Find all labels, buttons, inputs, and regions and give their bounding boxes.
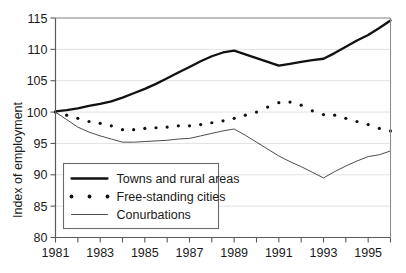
legend-marker-dot (88, 195, 92, 199)
series-point-free-standing-cities (65, 114, 68, 117)
series-line-towns-and-rural-areas (56, 21, 391, 112)
series-point-free-standing-cities (233, 117, 236, 120)
data-series (54, 21, 392, 178)
y-tick-label: 110 (28, 43, 48, 57)
y-axis-tick-labels: 80859095100105110115 (27, 12, 48, 246)
series-point-free-standing-cities (166, 126, 169, 129)
series-point-free-standing-cities (188, 124, 191, 127)
legend-label: Free-standing cities (117, 190, 226, 204)
series-point-free-standing-cities (121, 128, 124, 131)
series-point-free-standing-cities (110, 124, 113, 127)
series-point-free-standing-cities (199, 123, 202, 126)
series-point-free-standing-cities (87, 120, 90, 123)
y-tick-label: 105 (27, 74, 48, 88)
y-axis-title: Index of employment (11, 101, 25, 218)
series-point-free-standing-cities (355, 120, 358, 123)
y-axis-tickmarks (51, 18, 56, 238)
employment-index-line-chart: 80859095100105110115 1981198319851987198… (0, 0, 406, 273)
series-point-free-standing-cities (333, 114, 336, 117)
x-axis-tickmarks (56, 238, 391, 243)
x-tick-label: 1983 (86, 246, 114, 260)
series-point-free-standing-cities (132, 128, 135, 131)
x-axis-tick-labels: 19811983198519871989199119931995 (42, 246, 383, 260)
y-tick-label: 80 (34, 231, 48, 245)
series-point-free-standing-cities (344, 117, 347, 120)
series-point-free-standing-cities (221, 119, 224, 122)
y-tick-label: 85 (34, 200, 48, 214)
series-point-free-standing-cities (210, 121, 213, 124)
series-point-free-standing-cities (311, 109, 314, 112)
x-tick-label: 1991 (265, 246, 293, 260)
series-point-free-standing-cities (99, 122, 102, 125)
series-point-free-standing-cities (300, 104, 303, 107)
series-point-free-standing-cities (266, 105, 269, 108)
series-point-free-standing-cities (367, 123, 370, 126)
legend-label: Conurbations (117, 208, 191, 222)
x-tick-label: 1989 (220, 246, 248, 260)
series-point-free-standing-cities (378, 127, 381, 130)
y-tick-label: 100 (27, 106, 48, 120)
series-point-free-standing-cities (277, 101, 280, 104)
x-tick-label: 1995 (354, 246, 382, 260)
x-tick-label: 1993 (310, 246, 338, 260)
legend-label: Towns and rural areas (117, 172, 240, 186)
chart-legend: Towns and rural areasFree-standing citie… (64, 164, 240, 229)
chart-container: 80859095100105110115 1981198319851987198… (0, 0, 406, 273)
series-point-free-standing-cities (244, 114, 247, 117)
series-point-free-standing-cities (288, 100, 291, 103)
y-tick-label: 95 (34, 137, 48, 151)
series-point-free-standing-cities (154, 126, 157, 129)
series-point-free-standing-cities (177, 124, 180, 127)
series-point-free-standing-cities (76, 117, 79, 120)
legend-marker-dot (70, 195, 74, 199)
series-point-free-standing-cities (322, 113, 325, 116)
series-point-free-standing-cities (255, 110, 258, 113)
x-tick-label: 1985 (131, 246, 159, 260)
y-tick-label: 90 (34, 168, 48, 182)
legend-marker-dot (106, 195, 110, 199)
x-tick-label: 1987 (176, 246, 204, 260)
y-tick-label: 115 (28, 12, 48, 26)
x-tick-label: 1981 (42, 246, 70, 260)
series-point-free-standing-cities (143, 127, 146, 130)
